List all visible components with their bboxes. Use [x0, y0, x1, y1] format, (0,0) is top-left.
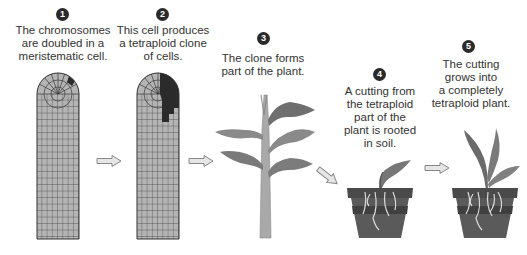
- step-1-badge: 1: [56, 8, 69, 21]
- arrow-icon: [314, 166, 340, 188]
- caption-line: are doubled in a: [8, 37, 118, 50]
- caption-line: part of the: [336, 111, 424, 124]
- step-5-caption: The cutting grows into a completely tetr…: [424, 58, 518, 110]
- step-1-caption: The chromosomes are doubled in a meriste…: [8, 24, 118, 63]
- step-5-badge: 5: [462, 40, 475, 53]
- caption-line: grows into: [424, 71, 518, 84]
- caption-line: The cutting: [424, 58, 518, 71]
- step-4-caption: A cutting from the tetraploid part of th…: [336, 85, 424, 150]
- meristem-diagram-1: [36, 72, 80, 240]
- step-2-caption: This cell produces a tetraploid clone of…: [110, 24, 216, 63]
- meristem-diagram-2: [136, 72, 180, 240]
- potted-plant-illustration: [450, 128, 520, 240]
- arrow-icon: [424, 162, 450, 174]
- caption-line: in soil.: [336, 137, 424, 150]
- caption-line: of cells.: [110, 50, 216, 63]
- caption-line: A cutting from: [336, 85, 424, 98]
- caption-line: The chromosomes: [8, 24, 118, 37]
- arrow-icon: [188, 155, 214, 167]
- plant-illustration: [215, 90, 315, 240]
- step-4-badge: 4: [373, 68, 386, 81]
- caption-line: This cell produces: [110, 24, 216, 37]
- caption-line: a tetraploid clone: [110, 37, 216, 50]
- caption-line: part of the plant.: [218, 65, 308, 78]
- step-3-caption: The clone forms part of the plant.: [218, 52, 308, 78]
- arrow-icon: [96, 155, 122, 167]
- step-2-badge: 2: [156, 8, 169, 21]
- caption-line: plant is rooted: [336, 124, 424, 137]
- caption-line: the tetraploid: [336, 98, 424, 111]
- step-3-badge: 3: [257, 32, 270, 45]
- potted-cutting-illustration: [345, 158, 415, 240]
- caption-line: The clone forms: [218, 52, 308, 65]
- caption-line: tetraploid plant.: [424, 97, 518, 110]
- caption-line: meristematic cell.: [8, 50, 118, 63]
- caption-line: a completely: [424, 84, 518, 97]
